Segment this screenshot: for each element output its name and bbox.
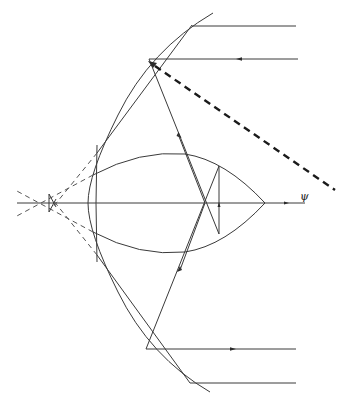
optics-ray-diagram: ψ (0, 0, 347, 405)
lens-top-curve (93, 153, 265, 203)
lens-bottom-curve (93, 203, 265, 253)
reflected-ray-from-top (149, 59, 219, 234)
reflected-ray-top-lower (180, 203, 205, 270)
reflected-ray-from-bottom (146, 166, 219, 349)
dashed-extension-outer-top (53, 153, 97, 207)
ray-arrow-left-icon (236, 57, 242, 60)
ray-arrow-right-icon (230, 347, 236, 350)
axis-label-psi: ψ (300, 190, 309, 203)
axis-arrow-icon (284, 202, 289, 205)
reflected-ray-bottom-upper (178, 134, 205, 203)
dashed-extension-outer-bottom (53, 200, 97, 255)
dashed-incident-ray (155, 66, 335, 190)
